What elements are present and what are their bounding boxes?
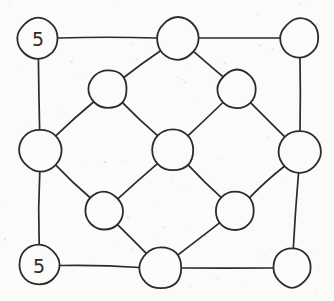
paper-speck <box>20 66 22 68</box>
graph-node[interactable]: 5 <box>20 245 60 285</box>
node-label: 5 <box>32 28 44 50</box>
graph-node[interactable] <box>152 129 193 170</box>
paper-speck <box>152 47 153 48</box>
paper-speck <box>205 235 207 237</box>
graph-node[interactable] <box>279 131 321 173</box>
paper-speck <box>299 3 301 5</box>
paper-speck <box>177 76 179 78</box>
graph-edge <box>56 102 94 136</box>
paper-speck <box>79 73 80 74</box>
paper-speck <box>309 4 311 6</box>
paper-speck <box>184 184 185 185</box>
node-circle[interactable] <box>152 129 193 170</box>
graph-edge <box>38 59 39 129</box>
graph-node[interactable] <box>88 70 126 107</box>
paper-speck <box>123 108 125 110</box>
node-circle[interactable] <box>279 131 321 173</box>
graph-edge <box>249 167 284 198</box>
node-circle[interactable] <box>280 18 318 57</box>
paper-speck <box>127 217 130 220</box>
paper-speck <box>1 204 2 205</box>
paper-speck <box>59 116 60 117</box>
paper-speck <box>130 43 132 45</box>
paper-speck <box>182 79 184 81</box>
node-circle[interactable] <box>88 70 126 107</box>
graph-edge <box>60 265 140 267</box>
paper-speck <box>215 278 217 280</box>
paper-speck <box>315 252 316 253</box>
node-circle[interactable] <box>274 248 311 287</box>
graph-node[interactable]: 5 <box>17 18 57 59</box>
paper-speck <box>188 65 189 66</box>
graph-edge <box>56 165 90 198</box>
paper-speck <box>25 122 27 124</box>
node-circle[interactable] <box>217 70 255 109</box>
paper-speck <box>282 182 283 183</box>
node-circle[interactable] <box>216 192 254 230</box>
graph-node[interactable] <box>216 192 254 230</box>
graph-node[interactable] <box>274 248 311 287</box>
paper-speck <box>272 48 274 50</box>
graph-edge <box>124 51 161 78</box>
graph-node[interactable] <box>139 247 181 288</box>
paper-speck <box>154 201 156 203</box>
paper-speck <box>190 285 192 287</box>
graph-node[interactable] <box>280 18 318 57</box>
paper-speck <box>94 262 95 263</box>
paper-speck <box>195 96 196 97</box>
paper-speck <box>220 157 222 159</box>
paper-speck <box>87 164 88 165</box>
node-circle[interactable] <box>139 247 181 288</box>
graph-edge <box>293 173 298 248</box>
graph-edge <box>39 172 40 245</box>
paper-speck <box>43 112 45 114</box>
paper-speck <box>164 226 166 228</box>
paper-speck <box>131 248 133 250</box>
paper-speck <box>113 2 115 4</box>
graph-node[interactable] <box>157 17 199 60</box>
paper-speck <box>117 240 118 241</box>
paper-speck <box>136 58 139 61</box>
paper-speck <box>61 105 62 106</box>
paper-speck <box>122 161 124 163</box>
diagram-canvas: 55 <box>0 0 334 301</box>
paper-speck <box>104 161 107 164</box>
graph-edge <box>194 52 222 76</box>
graph-edge <box>189 103 223 136</box>
node-circle[interactable] <box>85 192 123 230</box>
graph-svg: 55 <box>0 0 334 301</box>
paper-speck <box>153 232 154 233</box>
graph-node[interactable] <box>85 192 123 230</box>
paper-speck <box>224 62 226 64</box>
paper-speck <box>18 158 20 160</box>
paper-speck <box>267 136 269 138</box>
graph-edge <box>119 164 157 198</box>
paper-speck <box>171 179 173 181</box>
paper-speck <box>213 79 216 82</box>
paper-speck <box>4 238 7 241</box>
node-circle[interactable] <box>19 130 62 172</box>
paper-speck <box>241 281 242 282</box>
paper-speck <box>70 60 73 63</box>
graph-edge <box>251 103 285 137</box>
graph-edge <box>122 102 157 135</box>
paper-speck <box>8 2 10 4</box>
paper-speck <box>315 292 317 294</box>
nodes-group: 55 <box>17 17 321 288</box>
node-label: 5 <box>33 255 45 277</box>
paper-speck <box>189 226 190 227</box>
paper-speck <box>217 277 219 279</box>
paper-speck <box>317 265 319 267</box>
paper-speck <box>184 81 186 83</box>
paper-speck <box>195 154 197 156</box>
graph-node[interactable] <box>19 130 62 172</box>
paper-speck <box>89 225 91 227</box>
paper-speck <box>258 44 260 46</box>
paper-speck <box>86 74 87 75</box>
graph-node[interactable] <box>217 70 255 109</box>
graph-edge <box>178 223 220 255</box>
graph-edge <box>188 165 221 197</box>
paper-speck <box>316 23 318 25</box>
node-circle[interactable] <box>157 17 199 60</box>
graph-edge <box>59 37 157 38</box>
